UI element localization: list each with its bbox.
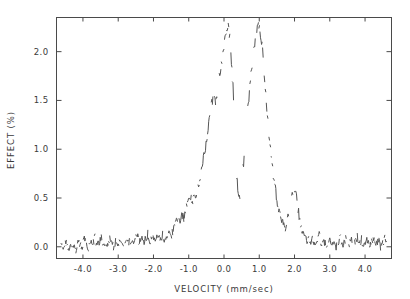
data-segment <box>360 236 361 245</box>
data-segment <box>172 230 173 235</box>
data-segment <box>229 34 230 37</box>
data-segment <box>227 28 228 30</box>
data-segment <box>372 239 373 243</box>
axis-frame <box>57 18 392 259</box>
data-segment <box>322 240 325 246</box>
x-tick-label: -3.0 <box>109 264 127 274</box>
data-segment <box>73 245 76 249</box>
data-segment <box>168 231 171 238</box>
data-segment <box>273 178 274 180</box>
x-axis-title: VELOCITY (mm/sec) <box>174 284 274 294</box>
data-segment <box>232 82 233 100</box>
y-axis-tick-labels: 0.00.51.01.52.0 <box>34 47 49 252</box>
data-segment <box>356 239 357 242</box>
data-segment <box>76 248 77 253</box>
data-segment <box>318 231 320 236</box>
data-segment <box>81 247 83 250</box>
data-segment <box>340 235 341 236</box>
data-segment <box>357 233 360 243</box>
data-segment <box>275 184 278 206</box>
data-segment <box>225 34 227 39</box>
data-segment <box>257 23 259 33</box>
data-segment <box>65 240 66 244</box>
data-segment <box>294 191 297 200</box>
data-segment <box>341 240 345 247</box>
x-axis-tick-labels: -4.0-3.0-2.0-1.00.01.02.03.04.0 <box>74 264 373 274</box>
data-segment <box>163 237 167 243</box>
data-segment <box>151 237 152 239</box>
data-segment <box>269 137 270 140</box>
data-segment <box>148 238 150 244</box>
data-segment <box>109 242 110 243</box>
data-segment <box>250 81 251 84</box>
data-segment <box>173 225 175 232</box>
y-axis-title: EFFECT (%) <box>6 111 16 169</box>
data-segment <box>251 68 252 71</box>
data-segment <box>301 226 302 227</box>
absorption-data-series <box>61 23 386 253</box>
data-segment <box>302 231 308 243</box>
data-segment <box>313 241 318 245</box>
data-segment <box>355 240 356 244</box>
data-segment <box>93 240 94 244</box>
data-segment <box>67 244 68 245</box>
data-segment <box>83 236 85 241</box>
data-segment <box>193 195 194 196</box>
data-segment <box>188 198 190 202</box>
data-segment <box>384 235 385 237</box>
data-segment <box>139 236 143 244</box>
data-segment <box>278 209 280 213</box>
data-segment <box>362 237 369 246</box>
data-segment <box>61 243 62 244</box>
data-segment <box>125 241 126 243</box>
data-segment <box>379 238 381 250</box>
data-segment <box>77 240 79 243</box>
data-segment <box>381 241 383 246</box>
data-segment <box>102 244 104 246</box>
data-segment <box>287 214 288 217</box>
data-segment <box>264 76 265 82</box>
data-segment <box>184 212 185 218</box>
data-segment <box>270 145 271 147</box>
data-segment <box>153 235 157 241</box>
data-segment <box>376 239 378 245</box>
data-segment <box>198 185 199 187</box>
x-tick-label: -1.0 <box>180 264 198 274</box>
data-segment <box>231 53 232 67</box>
data-segment <box>281 217 285 227</box>
data-segment <box>369 242 371 247</box>
data-segment <box>89 240 93 244</box>
data-segment <box>243 156 244 167</box>
data-segment <box>228 23 229 26</box>
data-segment <box>175 218 177 221</box>
data-segment <box>158 236 159 238</box>
data-segment <box>214 97 215 105</box>
x-tick-label: 4.0 <box>358 264 373 274</box>
data-segment <box>350 237 352 242</box>
data-segment <box>338 239 339 245</box>
data-segment <box>119 240 123 246</box>
data-segment <box>329 238 337 250</box>
data-segment <box>327 246 328 247</box>
data-segment <box>130 238 135 244</box>
data-segment <box>212 97 213 105</box>
x-tick-label: -2.0 <box>144 264 162 274</box>
data-segment <box>110 236 113 245</box>
data-segment <box>160 231 163 240</box>
x-tick-label: 3.0 <box>322 264 337 274</box>
data-segment <box>263 48 264 57</box>
mossbauer-spectrum-figure: -4.0-3.0-2.0-1.00.01.02.03.04.0 0.00.51.… <box>0 0 410 299</box>
spectrum-plot: -4.0-3.0-2.0-1.00.01.02.03.04.0 0.00.51.… <box>0 0 410 299</box>
data-segment <box>86 243 88 251</box>
y-tick-label: 0.0 <box>34 242 49 252</box>
data-segment <box>310 236 313 244</box>
x-tick-label: 2.0 <box>287 264 302 274</box>
data-segment <box>94 234 95 235</box>
data-segment <box>106 243 109 246</box>
data-segment <box>101 235 102 240</box>
y-tick-label: 1.0 <box>34 144 49 154</box>
y-tick-label: 1.5 <box>34 95 49 105</box>
data-segment <box>182 213 184 221</box>
data-segment <box>201 140 207 170</box>
data-segment <box>248 91 250 106</box>
